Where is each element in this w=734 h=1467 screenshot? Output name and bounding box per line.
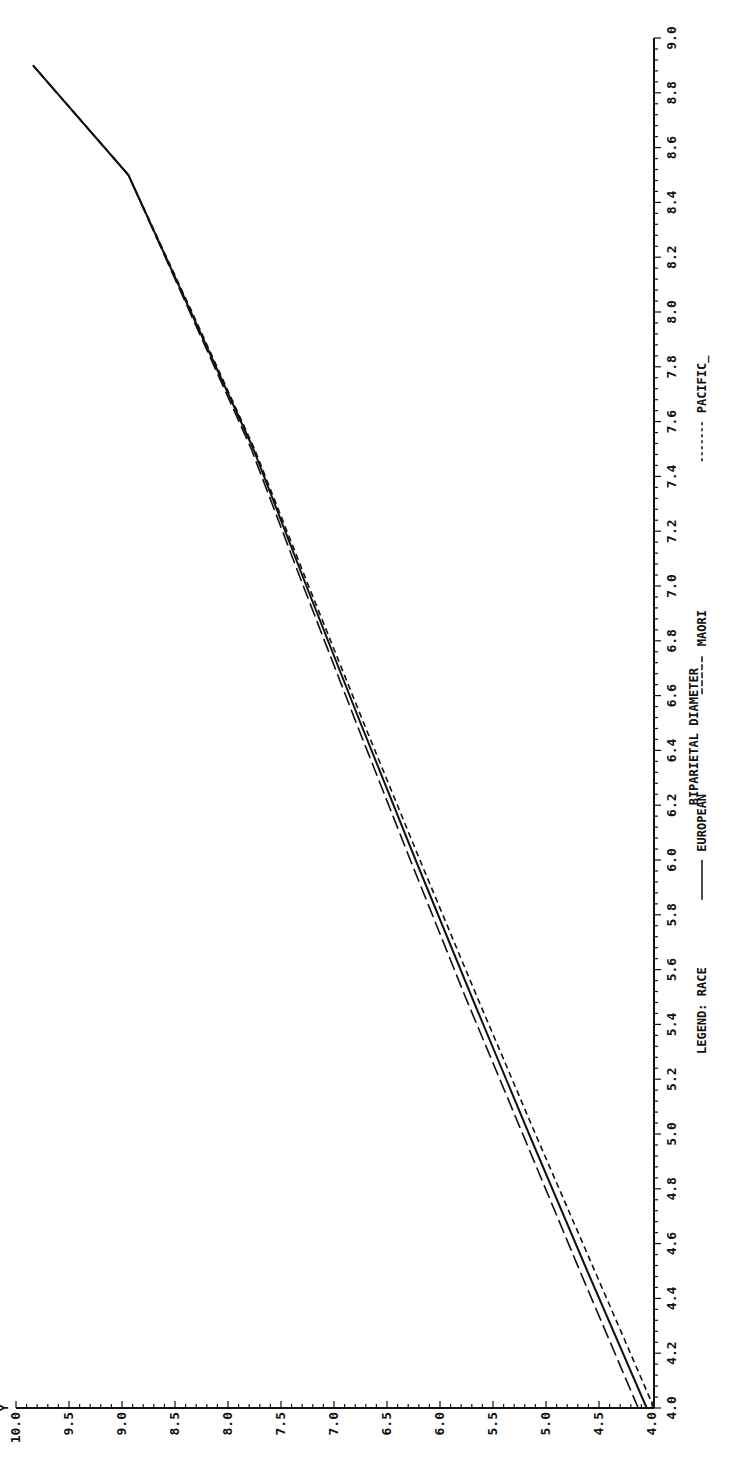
x-tick-label: 6.0 — [664, 848, 679, 872]
x-tick-label: 8.6 — [664, 136, 679, 160]
y-tick-label: 6.5 — [379, 1412, 394, 1435]
series-lines — [33, 65, 654, 1408]
y-tick-label: 7.0 — [326, 1412, 341, 1436]
y-axis-title: Y — [0, 1404, 11, 1412]
x-tick-label: 8.4 — [664, 190, 679, 214]
y-tick-label: 7.5 — [273, 1412, 288, 1435]
x-tick-label: 7.8 — [664, 355, 679, 379]
y-tick-label: 9.0 — [114, 1412, 129, 1436]
axis-labels: 4.04.24.44.64.85.05.25.45.65.86.06.26.46… — [0, 26, 701, 1443]
x-tick-label: 5.6 — [664, 958, 679, 982]
x-tick-label: 6.4 — [664, 738, 679, 762]
x-tick-label: 4.6 — [664, 1232, 679, 1256]
y-tick-label: 5.5 — [485, 1412, 500, 1435]
x-tick-label: 5.2 — [664, 1067, 679, 1090]
y-tick-label: 4.5 — [591, 1412, 606, 1435]
x-tick-label: 6.6 — [664, 684, 679, 708]
x-tick-label: 8.8 — [664, 81, 679, 105]
x-tick-label: 9.0 — [664, 26, 679, 50]
x-tick-label: 5.0 — [664, 1122, 679, 1146]
x-tick-label: 8.0 — [664, 300, 679, 324]
x-tick-label: 5.8 — [664, 903, 679, 927]
x-tick-label: 6.2 — [664, 793, 679, 816]
x-tick-label: 7.0 — [664, 574, 679, 598]
x-tick-label: 6.8 — [664, 629, 679, 653]
y-tick-label: 8.5 — [167, 1412, 182, 1435]
x-tick-label: 5.4 — [664, 1012, 679, 1036]
legend-label: PACIFIC_ — [695, 355, 710, 414]
rotated-line-chart: 4.04.24.44.64.85.05.25.45.65.86.06.26.46… — [0, 0, 734, 1467]
series-maori — [33, 65, 638, 1408]
x-tick-label: 7.4 — [664, 464, 679, 488]
y-tick-label: 4.0 — [644, 1412, 659, 1436]
y-tick-label: 5.0 — [538, 1412, 553, 1436]
y-tick-label: 9.5 — [61, 1412, 76, 1435]
legend-label: EUROPEAN — [695, 794, 709, 852]
x-tick-label: 4.4 — [664, 1286, 679, 1310]
series-european — [33, 65, 647, 1408]
legend-title: LEGEND: RACE — [695, 967, 709, 1054]
x-tick-label: 7.6 — [664, 410, 679, 434]
y-tick-label: 6.0 — [432, 1412, 447, 1436]
y-tick-label: 10.0 — [8, 1412, 23, 1443]
x-axis-title: BIPARIETAL DIAMETER — [687, 667, 701, 805]
x-tick-label: 4.8 — [664, 1177, 679, 1201]
x-tick-label: 7.2 — [664, 519, 679, 542]
x-tick-label: 4.2 — [664, 1341, 679, 1364]
legend-label: MAORI — [695, 610, 709, 646]
y-tick-label: 8.0 — [220, 1412, 235, 1436]
x-tick-label: 8.2 — [664, 245, 679, 268]
x-tick-label: 4.0 — [664, 1396, 679, 1420]
